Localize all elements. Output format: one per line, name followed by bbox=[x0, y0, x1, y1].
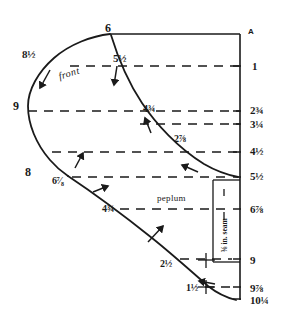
seam-allowance-label: ⅜ in. seam bbox=[220, 218, 229, 252]
arrow-side-upper bbox=[145, 118, 151, 133]
curve-measurement-label: 2⅞ bbox=[174, 134, 186, 144]
curve-measurement-label: 4¾ bbox=[143, 104, 155, 114]
arrow-bottom bbox=[199, 281, 215, 284]
arrow-peplum-low bbox=[148, 226, 163, 242]
scale-label: 9⅞ bbox=[250, 283, 263, 294]
scale-label: 3¼ bbox=[250, 119, 263, 130]
scale-label: 10¼ bbox=[250, 295, 269, 306]
curve-measurement-label: 8 bbox=[25, 166, 31, 178]
scale-label: 2¾ bbox=[250, 105, 263, 116]
curve-measurement-label: 5½ bbox=[113, 53, 126, 64]
peplum-section-label: peplum bbox=[157, 193, 186, 203]
curve-measurement-label: 6 bbox=[105, 22, 111, 34]
princess-seam-curve bbox=[111, 35, 238, 177]
arrow-side-lower bbox=[182, 165, 198, 172]
curve-measurement-label: 4¾ bbox=[102, 204, 114, 214]
scale-label: 5½ bbox=[250, 171, 263, 182]
scale-label: 4½ bbox=[250, 146, 263, 157]
arrow-peplum-mid bbox=[93, 186, 108, 192]
pattern-draft-diagram: A front peplum ⅜ in. seam 12¾3¼4½5½6⅞99⅞… bbox=[0, 0, 284, 321]
arrow-front-mid bbox=[114, 66, 117, 85]
front-outer-curve bbox=[28, 34, 110, 176]
arrow-peplum-top bbox=[75, 153, 83, 168]
scale-label: 1 bbox=[252, 61, 257, 72]
curve-measurement-label: 1½ bbox=[186, 283, 198, 293]
corner-label-a: A bbox=[248, 27, 254, 36]
curve-measurement-label: 9 bbox=[13, 100, 19, 112]
curve-measurement-label: 8½ bbox=[22, 49, 35, 60]
scale-label: 9 bbox=[250, 255, 255, 266]
scale-label: 6⅞ bbox=[250, 204, 263, 215]
curve-measurement-label: 6⁷⁄₈ bbox=[52, 176, 64, 186]
curve-measurement-label: 2½ bbox=[160, 259, 172, 269]
draft-drawing bbox=[0, 0, 284, 321]
